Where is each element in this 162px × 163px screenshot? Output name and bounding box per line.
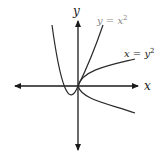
- label-y-equals-x-squared: y = x2: [96, 14, 128, 26]
- x-axis-label: x: [144, 79, 151, 93]
- y-axis-label: y: [72, 4, 80, 18]
- label-x-equals-y-squared: x = y2: [124, 47, 155, 59]
- coordinate-diagram: y x y = x2 x = y2: [0, 0, 162, 163]
